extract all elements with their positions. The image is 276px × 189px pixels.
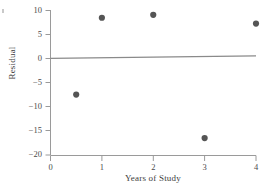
- y-tick-label-neg10: −10: [16, 101, 42, 111]
- x-tick-label-1: 1: [92, 162, 112, 172]
- y-axis-ticks: [46, 11, 51, 156]
- x-tick-label-4: 4: [246, 162, 266, 172]
- x-tick-label-3: 3: [195, 162, 215, 172]
- data-point[interactable]: [99, 15, 105, 21]
- data-point[interactable]: [253, 20, 259, 26]
- data-point[interactable]: [150, 12, 156, 18]
- zero-residual-line: [51, 56, 257, 58]
- scatter-points: [73, 12, 259, 141]
- y-tick-label-10: 10: [16, 5, 42, 15]
- x-axis-ticks: [51, 156, 257, 162]
- y-tick-label-5: 5: [16, 29, 42, 39]
- x-tick-label-2: 2: [143, 162, 163, 172]
- x-tick-label-0: 0: [41, 162, 61, 172]
- x-axis-title: Years of Study: [50, 173, 256, 183]
- residual-plot-figure: 10 5 0 −5 −10 −15 −20 0 1 2 3 4 Residual…: [0, 0, 276, 189]
- data-point[interactable]: [202, 135, 208, 141]
- y-tick-label-neg5: −5: [16, 77, 42, 87]
- y-tick-label-0: 0: [16, 53, 42, 63]
- y-tick-label-neg20: −20: [16, 149, 42, 159]
- data-point[interactable]: [73, 91, 79, 97]
- y-axis-title: Residual: [7, 35, 17, 91]
- y-tick-label-neg15: −15: [16, 125, 42, 135]
